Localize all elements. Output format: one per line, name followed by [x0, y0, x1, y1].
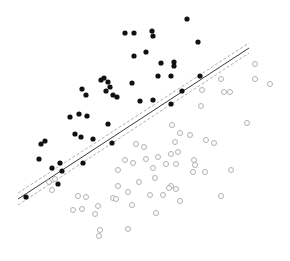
data-point-open: [123, 158, 128, 163]
data-point-filled: [149, 28, 154, 33]
data-point-filled: [150, 33, 155, 38]
data-point-filled: [36, 156, 41, 161]
data-point-open: [170, 123, 175, 128]
data-point-filled: [155, 73, 160, 78]
data-point-filled: [179, 88, 184, 93]
data-point-open: [212, 141, 217, 146]
data-point-open: [126, 227, 131, 232]
data-point-filled: [137, 98, 142, 103]
data-point-open: [144, 157, 149, 162]
data-point-filled: [57, 160, 62, 165]
data-point-open: [228, 90, 233, 95]
data-point-filled: [195, 39, 200, 44]
data-point-filled: [131, 30, 136, 35]
data-point-open: [200, 88, 205, 93]
data-point-open: [53, 177, 58, 182]
data-point-open: [154, 211, 159, 216]
data-point-filled: [103, 88, 108, 93]
data-point-open: [178, 199, 183, 204]
data-point-open: [84, 195, 89, 200]
data-point-open: [47, 180, 52, 185]
data-point-open: [188, 133, 193, 138]
data-point-filled: [105, 79, 110, 84]
data-point-open: [76, 194, 81, 199]
data-point-filled: [158, 60, 163, 65]
data-point-filled: [114, 94, 119, 99]
data-point-filled: [55, 181, 60, 186]
data-point-filled: [80, 160, 85, 165]
data-point-filled: [184, 16, 189, 21]
data-point-open: [173, 140, 178, 145]
data-point-open: [80, 207, 85, 212]
data-point-open: [222, 90, 227, 95]
data-point-open: [169, 152, 174, 157]
data-point-open: [71, 208, 76, 213]
data-point-open: [151, 166, 156, 171]
data-point-open: [148, 193, 153, 198]
data-point-open: [176, 150, 181, 155]
data-point-filled: [90, 136, 95, 141]
data-point-filled: [76, 111, 81, 116]
data-point-open: [93, 212, 98, 217]
data-point-open: [50, 188, 55, 193]
data-point-filled: [122, 30, 127, 35]
data-point-open: [126, 190, 131, 195]
data-point-open: [98, 228, 103, 233]
data-point-open: [134, 142, 139, 147]
plot-canvas: [0, 0, 290, 261]
plot-background: [0, 0, 290, 261]
data-point-filled: [72, 131, 77, 136]
data-point-filled: [168, 73, 173, 78]
data-point-open: [253, 62, 258, 67]
data-point-filled: [49, 165, 54, 170]
data-point-open: [137, 180, 142, 185]
data-point-open: [192, 158, 197, 163]
data-point-open: [142, 145, 147, 150]
data-point-filled: [150, 97, 155, 102]
data-point-filled: [171, 63, 176, 68]
data-point-open: [204, 138, 209, 143]
data-point-open: [193, 163, 198, 168]
data-point-filled: [105, 121, 110, 126]
data-point-open: [167, 186, 172, 191]
data-point-filled: [109, 140, 114, 145]
data-point-filled: [107, 84, 112, 89]
data-point-open: [114, 197, 119, 202]
data-point-open: [245, 121, 250, 126]
data-point-filled: [197, 73, 202, 78]
data-point-open: [219, 77, 224, 82]
data-point-filled: [101, 75, 106, 80]
data-point-filled: [59, 168, 64, 173]
data-point-open: [219, 194, 224, 199]
scatter-plot-figure: [0, 0, 290, 261]
data-point-filled: [78, 134, 83, 139]
data-point-open: [130, 203, 135, 208]
data-point-open: [96, 204, 101, 209]
data-point-open: [203, 170, 208, 175]
data-point-open: [229, 168, 234, 173]
data-point-filled: [131, 53, 136, 58]
data-point-open: [174, 187, 179, 192]
data-point-filled: [129, 80, 134, 85]
data-point-open: [156, 155, 161, 160]
data-point-open: [131, 161, 136, 166]
data-point-filled: [143, 49, 148, 54]
data-point-open: [161, 193, 166, 198]
data-point-filled: [84, 113, 89, 118]
data-point-open: [153, 176, 158, 181]
data-point-open: [116, 168, 121, 173]
data-point-open: [174, 162, 179, 167]
data-point-open: [268, 82, 273, 87]
data-point-filled: [67, 114, 72, 119]
data-point-filled: [42, 138, 47, 143]
data-point-open: [191, 170, 196, 175]
data-point-open: [116, 184, 121, 189]
data-point-filled: [79, 86, 84, 91]
data-point-filled: [83, 92, 88, 97]
data-point-open: [178, 131, 183, 136]
data-point-open: [97, 234, 102, 239]
data-point-open: [164, 162, 169, 167]
data-point-filled: [23, 194, 28, 199]
data-point-filled: [168, 101, 173, 106]
data-point-open: [253, 77, 258, 82]
